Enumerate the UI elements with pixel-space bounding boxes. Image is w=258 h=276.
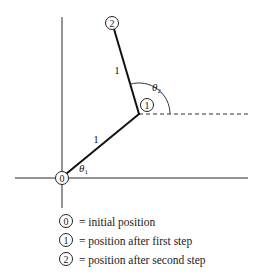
legend-node-1-label: 1	[64, 235, 69, 246]
node-1-label: 1	[145, 100, 150, 111]
first-step-length-label: 1	[93, 133, 99, 145]
legend-text-initial: = initial position	[79, 216, 155, 229]
legend-node-2-label: 2	[64, 254, 69, 265]
node-0-label: 0	[60, 173, 65, 184]
theta2-label: θ2	[152, 81, 161, 95]
node-2-label: 2	[110, 18, 115, 29]
legend-node-0-label: 0	[64, 216, 69, 227]
step-diagram: 1 1 θ1 θ2 0 1 2 0 = initial position 1 =…	[0, 0, 258, 276]
legend: 0 = initial position 1 = position after …	[60, 215, 206, 267]
node-0: 0	[56, 172, 69, 185]
legend-item-initial: 0 = initial position	[60, 215, 156, 229]
second-step-length-label: 1	[114, 64, 120, 76]
legend-text-second-step: = position after second step	[79, 254, 206, 267]
legend-item-second-step: 2 = position after second step	[60, 253, 206, 267]
theta1-label: θ1	[79, 162, 88, 176]
node-2: 2	[106, 17, 119, 30]
node-1: 1	[141, 99, 154, 112]
legend-text-first-step: = position after first step	[79, 235, 192, 248]
legend-item-first-step: 1 = position after first step	[60, 234, 193, 248]
first-step-segment	[66, 114, 139, 174]
